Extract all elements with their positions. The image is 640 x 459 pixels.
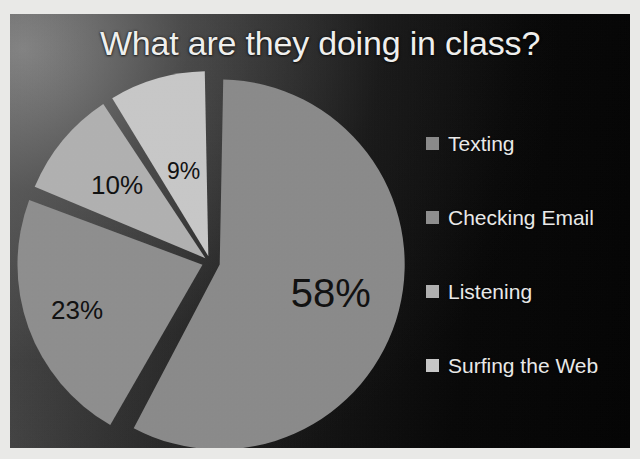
pie-chart: 58%23%10%9% bbox=[10, 62, 410, 448]
legend-item-listening[interactable]: Listening bbox=[426, 278, 626, 305]
legend-item-checking-email[interactable]: Checking Email bbox=[426, 204, 626, 231]
pie-slice-label: 23% bbox=[51, 295, 103, 325]
pie-slice-group bbox=[17, 71, 404, 448]
legend-label: Surfing the Web bbox=[448, 352, 598, 379]
chart-slide: What are they doing in class? 58%23%10%9… bbox=[10, 14, 630, 448]
pie-slice-label: 10% bbox=[91, 170, 143, 200]
legend-item-surfing-the-web[interactable]: Surfing the Web bbox=[426, 352, 626, 379]
legend-swatch-icon bbox=[426, 285, 439, 298]
pie-slice-label: 58% bbox=[291, 271, 371, 315]
chart-title: What are they doing in class? bbox=[10, 24, 630, 63]
legend-item-texting[interactable]: Texting bbox=[426, 130, 626, 157]
legend-swatch-icon bbox=[426, 359, 439, 372]
chart-legend: Texting Checking Email Listening Surfing… bbox=[426, 130, 626, 426]
legend-swatch-icon bbox=[426, 211, 439, 224]
legend-label: Listening bbox=[448, 278, 532, 305]
legend-label: Texting bbox=[448, 130, 515, 157]
pie-slice-label: 9% bbox=[167, 158, 200, 184]
pie-chart-svg: 58%23%10%9% bbox=[10, 62, 410, 448]
slide-image: What are they doing in class? 58%23%10%9… bbox=[0, 0, 640, 459]
legend-label: Checking Email bbox=[448, 204, 594, 231]
legend-swatch-icon bbox=[426, 137, 439, 150]
